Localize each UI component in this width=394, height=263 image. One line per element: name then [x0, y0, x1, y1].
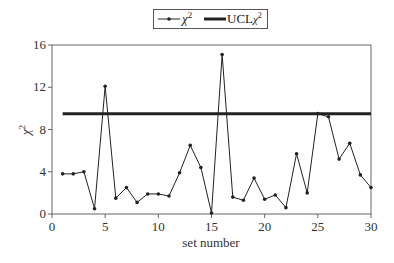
data-point-marker	[178, 171, 182, 175]
data-point-marker	[274, 193, 278, 197]
data-point-marker	[188, 144, 192, 148]
legend-label-chi2-sup: 2	[188, 10, 193, 20]
legend-label-ucl: UCL	[227, 11, 253, 26]
x-tick-label: 0	[49, 219, 56, 234]
x-tick-label: 25	[311, 219, 324, 234]
y-axis-title: χ2	[17, 125, 33, 137]
data-point-marker	[157, 192, 161, 196]
data-point-marker	[284, 206, 288, 210]
chi2-series	[61, 53, 373, 215]
data-point-marker	[71, 172, 75, 176]
data-point-marker	[305, 191, 309, 195]
chi2-line	[63, 55, 371, 213]
y-tick-label: 4	[40, 164, 47, 179]
legend: χ2 UCLχ2	[154, 10, 268, 29]
data-point-marker	[199, 166, 203, 170]
x-tick-label: 20	[258, 219, 271, 234]
data-point-marker	[135, 201, 139, 205]
x-tick-label: 30	[365, 219, 378, 234]
data-point-marker	[61, 172, 65, 176]
legend-label-ucl-sup: 2	[258, 11, 262, 20]
data-point-marker	[359, 173, 363, 177]
data-point-marker	[93, 207, 97, 211]
data-point-marker	[220, 53, 224, 57]
plot-area	[52, 45, 371, 214]
y-tick-label: 16	[33, 37, 47, 52]
y-axis: 0481216	[33, 37, 52, 221]
data-point-marker	[327, 115, 331, 119]
data-point-marker	[348, 141, 352, 145]
y-tick-label: 12	[33, 79, 46, 94]
data-point-marker	[369, 186, 373, 190]
legend-marker-icon	[167, 17, 171, 21]
data-point-marker	[295, 152, 299, 156]
x-tick-label: 5	[102, 219, 109, 234]
data-point-marker	[167, 194, 171, 198]
x-axis: 051015202530	[49, 214, 378, 234]
svg-text:UCLχ2: UCLχ2	[227, 11, 262, 26]
data-point-marker	[82, 170, 86, 174]
chi-square-control-chart: χ2 UCLχ2 0481216 051015202530 set number…	[0, 0, 394, 263]
data-point-marker	[252, 176, 256, 180]
data-point-marker	[114, 196, 118, 200]
data-point-marker	[210, 211, 214, 215]
x-tick-label: 10	[152, 219, 165, 234]
y-tick-label: 8	[40, 122, 47, 137]
data-point-marker	[337, 157, 341, 161]
data-point-marker	[103, 84, 107, 88]
x-tick-label: 15	[205, 219, 218, 234]
data-point-marker	[231, 195, 235, 199]
x-axis-title: set number	[182, 235, 240, 250]
data-point-marker	[125, 186, 129, 190]
data-point-marker	[242, 198, 246, 202]
data-point-marker	[263, 197, 267, 201]
y-tick-label: 0	[40, 206, 47, 221]
data-point-marker	[146, 192, 150, 196]
data-point-marker	[316, 112, 320, 116]
